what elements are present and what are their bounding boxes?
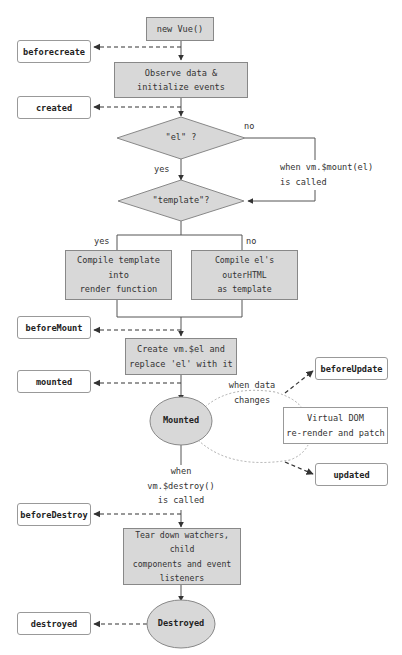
virtual-dom-node: Virtual DOM re-render and patch bbox=[283, 407, 388, 444]
hook-destroyed: destroyed bbox=[17, 612, 91, 635]
hook-updated: updated bbox=[315, 463, 388, 486]
mount-called-label: when vm.$mount(el) is called bbox=[280, 160, 373, 189]
hook-created: created bbox=[17, 96, 91, 119]
data-changes-label: when data changes bbox=[226, 378, 278, 407]
el-no-label: no bbox=[244, 119, 254, 134]
hook-beforemount: beforeMount bbox=[17, 316, 91, 339]
hook-beforedestroy: beforeDestroy bbox=[17, 503, 91, 526]
mounted-state-label: Mounted bbox=[150, 415, 212, 425]
destroy-called-label: when vm.$destroy() is called bbox=[145, 464, 217, 508]
template-decision-label: "template"? bbox=[140, 195, 222, 205]
destroyed-state-label: Destroyed bbox=[145, 618, 217, 628]
hook-beforecreate: beforecreate bbox=[17, 40, 91, 63]
teardown-node: Tear down watchers, child components and… bbox=[123, 528, 241, 585]
compile-outerhtml-node: Compile el's outerHTML as template bbox=[191, 250, 298, 300]
el-decision-label: "el" ? bbox=[150, 132, 212, 142]
el-yes-label: yes bbox=[154, 162, 170, 177]
hook-mounted: mounted bbox=[17, 370, 91, 393]
template-no-label: no bbox=[246, 234, 256, 249]
compile-template-node: Compile template into render function bbox=[65, 250, 172, 300]
template-yes-label: yes bbox=[94, 234, 110, 249]
create-el-node: Create vm.$el and replace 'el' with it bbox=[125, 338, 237, 375]
new-vue-node: new Vue() bbox=[146, 17, 214, 41]
hook-beforeupdate: beforeUpdate bbox=[315, 357, 388, 380]
observe-data-node: Observe data & initialize events bbox=[114, 62, 248, 98]
